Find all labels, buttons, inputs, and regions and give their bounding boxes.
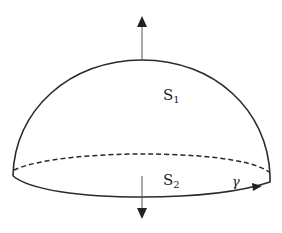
dome-outline — [13, 60, 270, 176]
label-s1: S1 — [163, 86, 180, 105]
arrowhead-up-icon — [137, 16, 147, 27]
hemisphere-diagram: S1 S2 γ — [0, 0, 282, 233]
arrowhead-down-icon — [137, 208, 147, 219]
label-s2: S2 — [163, 171, 180, 190]
base-ellipse-back-dashed — [14, 154, 269, 172]
label-gamma: γ — [232, 174, 240, 189]
